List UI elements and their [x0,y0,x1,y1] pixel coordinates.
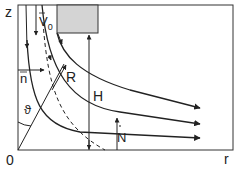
gray-block [57,5,98,33]
angle-label: ϑ [24,103,31,116]
z-axis-label: z [5,5,12,19]
normal-label: n [20,72,27,85]
height-label: H [93,89,103,103]
angle-arc [18,122,31,126]
flux-label: N [117,131,126,144]
flow-diagram [0,0,238,173]
radius-arrow [52,65,66,90]
radius-label: R [66,70,76,84]
velocity-label: V0 [39,15,53,32]
dashed-arrow [49,55,51,60]
streamline-3 [57,33,200,108]
origin-label: 0 [6,153,14,167]
r-axis-label: r [224,152,229,166]
